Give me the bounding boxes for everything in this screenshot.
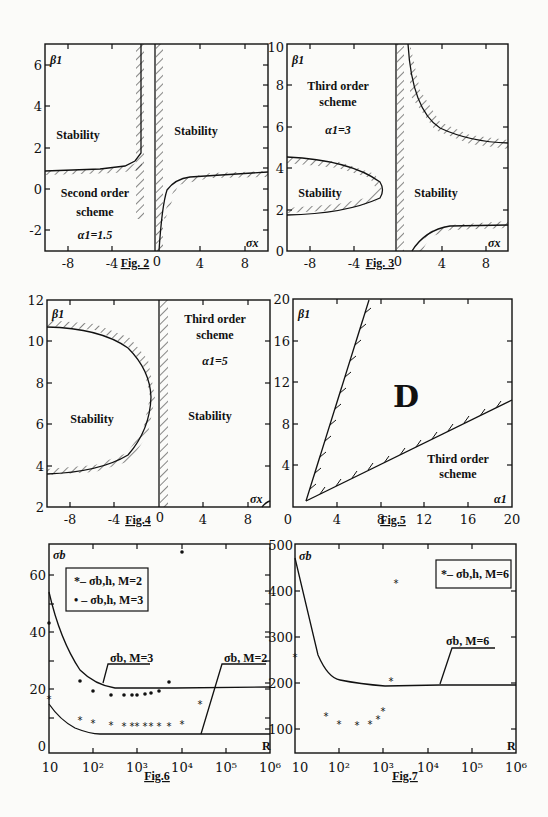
- svg-text:*: *: [157, 721, 162, 732]
- fig5-scheme-label-1: Third order: [427, 452, 489, 466]
- fig5-scheme-label-2: scheme: [439, 467, 477, 481]
- fig4-scheme-label-2: scheme: [196, 328, 234, 342]
- fig2-y-axis-label: β1: [49, 53, 62, 67]
- fig4-y-tick-labels: 12 10 8 6 4 2: [27, 293, 44, 515]
- fig5-ytick: 8: [282, 417, 290, 432]
- fig6-annotation-m3: σb, M=3: [110, 651, 153, 665]
- fig3-region-left-label: Stability: [298, 186, 341, 200]
- fig4-xtick: 4: [199, 512, 207, 527]
- fig4-ytick: 12: [27, 293, 44, 308]
- fig2-xtick: 0: [153, 254, 161, 269]
- fig5-xtick: 20: [504, 512, 521, 527]
- fig5-chart: 0 4 8 12 16 20 20 16 12 8 4 β1 α1 D Thir…: [273, 292, 520, 527]
- fig3-upper-right-boundary: [408, 44, 508, 143]
- fig6-ytick: 40: [29, 625, 46, 640]
- fig5-y-tick-labels: 20 16 12 8 4: [273, 292, 290, 473]
- fig5-xtick: 12: [416, 512, 433, 527]
- fig6-ytick: 60: [29, 568, 46, 583]
- fig7-ytick: 300: [268, 630, 293, 645]
- svg-text:*: *: [167, 721, 172, 732]
- fig5-x-axis-label: α1: [494, 492, 507, 506]
- svg-text:*: *: [149, 721, 154, 732]
- fig4-y-axis-label: β1: [51, 307, 64, 321]
- fig6-xtick: 10²: [82, 760, 104, 775]
- fig6-x-axis-label: R: [262, 739, 271, 753]
- svg-text:*: *: [47, 694, 52, 705]
- fig2-chart: -8 -4 0 4 8 6 4 2 0 -2 β1 σx Stability S…: [29, 44, 268, 271]
- svg-text:*: *: [78, 715, 83, 726]
- fig3-scheme-label-2: scheme: [319, 95, 357, 109]
- fig7-chart: ********* *– σb,h, M=6 σb, M=6 σb R 10 1…: [265, 538, 527, 783]
- fig5-y-axis-label: β1: [297, 307, 310, 321]
- svg-text:*: *: [91, 718, 96, 729]
- fig2-region-left-label: Stability: [56, 128, 99, 142]
- fig3-chart: -8 -4 0 4 8 10 8 6 4 2 0 β1 σx Third ord…: [263, 40, 508, 271]
- svg-text:*: *: [368, 719, 373, 730]
- fig2-scheme-label-1: Second order: [61, 186, 130, 200]
- fig3-ytick: 10: [267, 40, 284, 55]
- fig2-xtick: -8: [62, 256, 75, 271]
- fig4-xtick: 8: [244, 512, 252, 527]
- fig3-y-axis-label: β1: [291, 53, 304, 67]
- svg-text:*: *: [389, 676, 394, 687]
- fig3-xtick: 4: [438, 256, 446, 271]
- fig2-x-axis-label: σx: [246, 236, 258, 250]
- fig2-ytick: 2: [34, 141, 42, 156]
- svg-text:*: *: [381, 706, 386, 717]
- fig7-legend-item-m6: *– σb,h, M=6: [441, 567, 509, 581]
- fig6-annotation-m2: σb, M=2: [224, 651, 267, 665]
- fig4-corner-curve: [262, 501, 270, 507]
- fig7-caption: Fig.7: [392, 769, 418, 783]
- fig6-markers-m2: *************: [47, 694, 203, 732]
- fig3-ytick: 6: [276, 120, 284, 135]
- fig5-ytick: 16: [273, 334, 290, 349]
- fig6-y-axis-label: σb: [53, 548, 65, 562]
- fig3-ytick: 4: [276, 161, 284, 176]
- fig3-hatch-vertical: [397, 44, 404, 251]
- fig4-caption: Fig.4: [125, 513, 151, 527]
- svg-text:*: *: [394, 578, 399, 589]
- svg-text:*: *: [324, 711, 329, 722]
- fig6-annotation-leader-m3: [103, 664, 150, 683]
- fig5-xtick: 0: [284, 512, 292, 527]
- fig6-ytick: 20: [29, 682, 46, 697]
- fig2-hatch-right: [163, 171, 268, 220]
- fig7-y-tick-labels: 500 400 300 200 100: [268, 538, 293, 737]
- fig5-hatch-upper: [310, 308, 371, 489]
- fig6-annotation-leader-m2: [201, 664, 266, 734]
- fig3-ytick: 8: [276, 78, 284, 93]
- fig4-scheme-label-1: Third order: [184, 312, 246, 326]
- fig3-xtick: 0: [394, 254, 402, 269]
- fig6-xtick: 10⁴: [171, 760, 193, 775]
- fig4-xtick: 0: [156, 510, 164, 525]
- svg-text:*: *: [293, 652, 298, 663]
- fig4-region-right-label: Stability: [188, 409, 231, 423]
- fig3-parameter-label: α1=3: [325, 123, 350, 137]
- fig6-y-tick-labels: 60 40 20 0: [29, 568, 46, 754]
- svg-text:*: *: [180, 719, 185, 730]
- fig3-hatch-upper-right: [410, 44, 508, 149]
- fig3-ytick: 2: [276, 203, 284, 218]
- fig7-ytick: 400: [268, 584, 293, 599]
- fig2-xtick: -4: [106, 256, 119, 271]
- fig6-legend-item-m3: • – σb,h, M=3: [74, 593, 143, 607]
- fig6-caption: Fig.6: [144, 769, 170, 783]
- fig4-xtick: -8: [64, 512, 77, 527]
- fig2-hatch-left-horizontal: [45, 158, 142, 175]
- fig6-xtick: 10⁵: [215, 760, 237, 775]
- fig6-xtick: 10⁶: [259, 760, 281, 775]
- fig5-xtick: 4: [333, 512, 341, 527]
- fig7-ytick: 200: [268, 676, 293, 691]
- svg-text:*: *: [122, 721, 127, 732]
- fig7-xtick: 10⁴: [417, 760, 439, 775]
- fig3-xtick: -8: [304, 256, 317, 271]
- fig7-ytick: 500: [268, 538, 293, 553]
- fig7-y-axis-label: σb: [299, 549, 311, 563]
- fig5-upper-boundary: [306, 300, 369, 501]
- fig3-caption: Fig. 3: [366, 256, 395, 270]
- fig4-chart: -8 -4 0 4 8 12 10 8 6 4 2 β1 σx Third or…: [27, 293, 270, 527]
- fig3-ticks: [263, 44, 508, 251]
- fig2-x-tick-labels: -8 -4 0 4 8: [62, 254, 249, 271]
- fig4-x-tick-labels: -8 -4 0 4 8: [64, 510, 252, 527]
- fig4-ytick: 4: [36, 459, 44, 474]
